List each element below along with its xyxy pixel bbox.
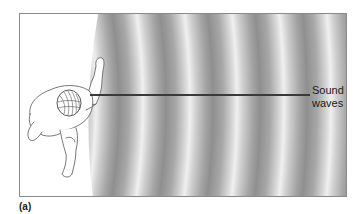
figure-frame: Sound waves (19, 13, 347, 197)
callout-line-2: waves (312, 97, 344, 110)
callout-pointer-line (90, 94, 310, 96)
person-top-view-icon (20, 14, 140, 197)
sound-waves-callout: Sound waves (312, 84, 344, 110)
head-icon (57, 90, 81, 116)
callout-line-1: Sound (312, 84, 344, 97)
panel-label: (a) (19, 201, 31, 213)
